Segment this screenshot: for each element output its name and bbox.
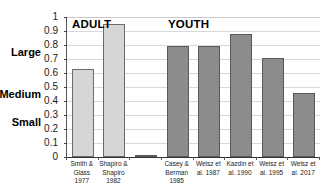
x-tick-mark: [193, 157, 194, 160]
bar-chart-figure: 00.10.20.30.40.50.60.70.80.91LargeMedium…: [0, 0, 325, 196]
x-label-line: 1985: [161, 177, 193, 186]
x-tick-mark: [256, 157, 257, 160]
y-tick-mark: [64, 115, 67, 116]
x-label-line: Shapiro &: [98, 160, 130, 169]
x-label: Smith &Glass1977: [66, 160, 98, 186]
x-label-line: Glass: [66, 169, 98, 178]
x-label-line: al. 1987: [193, 169, 225, 178]
bar: [230, 34, 252, 157]
x-label-line: Weisz et: [193, 160, 225, 169]
y-tick-mark: [64, 73, 67, 74]
y-tick-label-0: 0: [52, 152, 58, 162]
bar: [198, 46, 220, 157]
x-label-line: al. 1995: [256, 169, 288, 178]
group-label-youth: YOUTH: [168, 18, 209, 30]
bar: [72, 69, 94, 157]
group-label-adult: ADULT: [72, 18, 111, 30]
x-label-line: Kazdin et: [224, 160, 256, 169]
y-tick-label-0.1: 0.1: [44, 138, 58, 148]
x-label: Kazdin etal. 1990: [224, 160, 256, 177]
y-tick-mark: [64, 101, 67, 102]
y-tick-mark: [64, 45, 67, 46]
y-tick-label-0.7: 0.7: [44, 54, 58, 64]
y-tick-label-1: 1: [52, 12, 58, 22]
x-axis-labels: Smith &Glass1977Shapiro &Shapiro1982Case…: [66, 160, 319, 196]
y-tick-mark: [64, 143, 67, 144]
plot-area: [66, 17, 320, 158]
y-axis: 00.10.20.30.40.50.60.70.80.91LargeMedium…: [0, 0, 63, 196]
x-tick-mark: [319, 157, 320, 160]
x-label-line: 1982: [98, 177, 130, 186]
x-label-line: al. 2017: [287, 169, 319, 178]
effect-size-anchor-large: Large: [11, 47, 41, 58]
x-label: Weisz etal. 2017: [287, 160, 319, 177]
y-tick-label-0.8: 0.8: [44, 40, 58, 50]
y-tick-label-0.4: 0.4: [44, 96, 58, 106]
x-tick-mark: [66, 157, 67, 160]
x-tick-mark: [98, 157, 99, 160]
x-label-line: 1977: [66, 177, 98, 186]
x-label-line: Casey &: [161, 160, 193, 169]
x-label-line: Weisz et: [287, 160, 319, 169]
x-label: Shapiro &Shapiro1982: [98, 160, 130, 186]
y-tick-label-0.9: 0.9: [44, 26, 58, 36]
y-tick-mark: [64, 129, 67, 130]
bar: [293, 93, 315, 157]
bar: [167, 46, 189, 157]
x-label-line: Berman: [161, 169, 193, 178]
y-tick-label-0.5: 0.5: [44, 82, 58, 92]
x-label: Weisz etal. 1987: [193, 160, 225, 177]
x-label-line: Smith &: [66, 160, 98, 169]
y-tick-label-0.3: 0.3: [44, 110, 58, 120]
x-label-line: Shapiro: [98, 169, 130, 178]
x-label: Weisz etal. 1995: [256, 160, 288, 177]
y-tick-label-0.6: 0.6: [44, 68, 58, 78]
y-tick-mark: [64, 87, 67, 88]
y-tick-mark: [64, 31, 67, 32]
x-tick-mark: [161, 157, 162, 160]
bar: [135, 155, 157, 157]
y-tick-label-0.2: 0.2: [44, 124, 58, 134]
x-tick-mark: [129, 157, 130, 160]
x-label-line: al. 1990: [224, 169, 256, 178]
effect-size-anchor-small: Small: [12, 117, 41, 128]
y-tick-mark: [64, 17, 67, 18]
bar: [103, 24, 125, 157]
x-label: Casey &Berman1985: [161, 160, 193, 186]
x-label-line: Weisz et: [256, 160, 288, 169]
x-tick-mark: [224, 157, 225, 160]
y-tick-mark: [64, 59, 67, 60]
bar: [262, 58, 284, 157]
effect-size-anchor-medium: Medium: [0, 89, 41, 100]
x-tick-mark: [287, 157, 288, 160]
